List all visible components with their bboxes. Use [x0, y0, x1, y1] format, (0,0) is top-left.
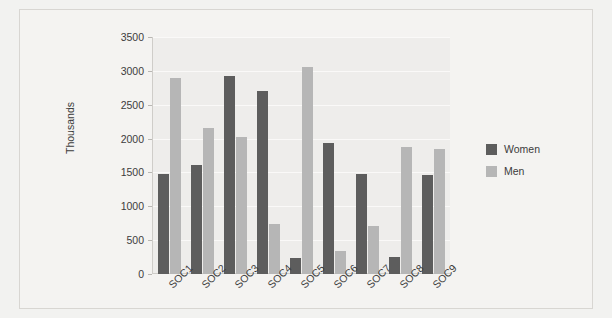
y-axis-labels: 0500100015002000250030003500 [94, 10, 144, 310]
y-axis-tick [148, 240, 152, 241]
y-axis-tick [148, 105, 152, 106]
y-axis-tick-label: 2000 [96, 133, 144, 145]
bar-soc5-men [302, 67, 313, 274]
bar-soc2-men [203, 128, 214, 274]
legend-item-women[interactable]: Women [486, 138, 576, 160]
bar-soc4-women [257, 91, 268, 274]
y-axis-tick [148, 172, 152, 173]
bar-soc4-men [269, 224, 280, 274]
y-axis-tick-label: 1000 [96, 200, 144, 212]
bar-soc2-women [191, 165, 202, 274]
y-axis-tick [148, 274, 152, 275]
bar-soc9-men [434, 149, 445, 274]
chart-legend: Women Men [486, 138, 576, 182]
y-axis-tick-label: 500 [96, 234, 144, 246]
chart-container: 0500100015002000250030003500 Thousands S… [19, 9, 593, 309]
bar-soc1-men [170, 78, 181, 274]
y-axis-tick-label: 2500 [96, 99, 144, 111]
bar-soc6-women [323, 143, 334, 274]
gridline [153, 37, 450, 38]
y-axis-tick-label: 3000 [96, 65, 144, 77]
bar-soc8-men [401, 147, 412, 274]
y-axis-line [152, 37, 153, 274]
y-axis-tick [148, 139, 152, 140]
bar-soc9-women [422, 175, 433, 274]
y-axis-tick [148, 37, 152, 38]
legend-label-women: Women [504, 143, 540, 155]
y-axis-tick-label: 3500 [96, 31, 144, 43]
legend-item-men[interactable]: Men [486, 160, 576, 182]
y-axis-tick [148, 206, 152, 207]
y-axis-tick-label: 1500 [96, 166, 144, 178]
legend-swatch-women-icon [486, 144, 497, 155]
y-axis-tick-label: 0 [96, 268, 144, 280]
bar-soc7-women [356, 174, 367, 274]
bar-soc1-women [158, 174, 169, 274]
legend-swatch-men-icon [486, 166, 497, 177]
y-axis-title: Thousands [64, 68, 76, 188]
legend-label-men: Men [504, 165, 524, 177]
bar-soc3-women [224, 76, 235, 274]
bar-soc3-men [236, 137, 247, 274]
y-axis-tick [148, 71, 152, 72]
